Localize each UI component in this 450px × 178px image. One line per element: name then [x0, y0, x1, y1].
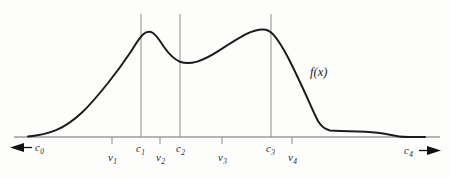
- label-c4: c4: [404, 145, 413, 156]
- label-c3-sub: 3: [271, 148, 275, 157]
- label-v3: v3: [218, 152, 227, 163]
- label-c0: c0: [35, 142, 44, 153]
- label-c4-sub: 4: [409, 150, 413, 159]
- label-v4: v4: [288, 152, 297, 163]
- label-v2-sub: 2: [161, 157, 165, 166]
- label-c2-sub: 2: [181, 148, 185, 157]
- label-v1-sub: 1: [113, 157, 117, 166]
- label-v4-sub: 4: [293, 157, 297, 166]
- left-arrow-icon: [10, 143, 24, 152]
- label-v3-sub: 3: [223, 157, 227, 166]
- label-c1: c1: [136, 143, 145, 154]
- right-arrow-icon: [427, 146, 441, 155]
- label-c3: c3: [266, 143, 275, 154]
- label-c2: c2: [176, 143, 185, 154]
- label-v2: v2: [156, 152, 165, 163]
- label-v1: v1: [108, 152, 117, 163]
- density-curve-path: [28, 29, 425, 137]
- label-c1-sub: 1: [141, 148, 145, 157]
- function-label-fx: f(x): [310, 66, 327, 79]
- label-c0-sub: 0: [40, 147, 44, 156]
- figure-container: c0 c1 c2 c3 c4 v1 v2 v3 v4 f(x): [0, 0, 450, 178]
